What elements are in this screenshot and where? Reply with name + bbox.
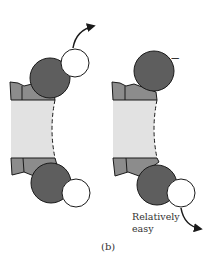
left-body xyxy=(11,100,55,158)
left-molecule xyxy=(10,26,94,207)
right-bottom-white-group xyxy=(167,179,195,207)
right-top-dark-group xyxy=(134,51,174,91)
right-leaving-arrow-icon xyxy=(181,208,201,229)
diagram-canvas: − Relatively easy (b) xyxy=(0,0,207,257)
left-leaving-arrow-icon xyxy=(73,26,94,48)
left-top-white-group xyxy=(61,49,89,77)
annotation-line1: Relatively xyxy=(132,211,180,222)
left-bottom-white-group xyxy=(62,179,90,207)
right-molecule: − Relatively easy xyxy=(112,51,201,234)
annotation-line2: easy xyxy=(132,223,154,234)
negative-charge-label: − xyxy=(170,51,180,65)
panel-label: (b) xyxy=(101,241,115,252)
right-body xyxy=(113,100,157,158)
